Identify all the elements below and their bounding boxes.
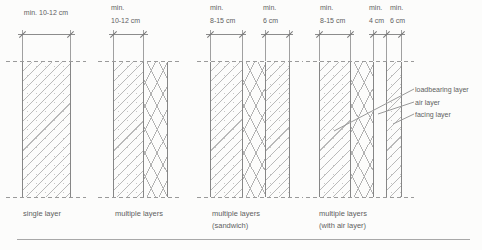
layer-facing	[265, 62, 290, 197]
dim-label: min.	[390, 2, 403, 13]
bottom-separator	[17, 239, 470, 240]
air-layer-label: air layer	[415, 98, 440, 107]
dim-label: min.	[210, 2, 223, 13]
wall-caption: (sandwich)	[212, 220, 248, 232]
cut-line-bottom	[98, 197, 181, 198]
cut-line-bottom	[306, 197, 414, 198]
layer-loadbearing	[22, 62, 71, 197]
wall-caption: (with air layer)	[319, 220, 366, 232]
wall-caption: multiple layers	[319, 208, 367, 220]
dim-label: 6 cm	[390, 15, 405, 26]
dim-label: 6 cm	[263, 15, 278, 26]
dim-label: min.	[111, 2, 124, 13]
dim-label: 10-12 cm	[111, 15, 140, 26]
layer-loadbearing	[210, 62, 242, 197]
dim-label: min.	[369, 2, 382, 13]
wall-caption: multiple layers	[115, 208, 163, 220]
cut-line-bottom	[6, 197, 86, 198]
facing-layer-label: facing layer	[415, 110, 451, 119]
loadbearing-layer-label: loadbearing layer	[415, 85, 469, 94]
leader-lines	[325, 78, 420, 138]
dim-label: min.	[263, 2, 276, 13]
dim-label: min.	[320, 2, 333, 13]
dim-label: min. 10-12 cm	[24, 7, 68, 18]
dim-label: 4 cm	[369, 15, 384, 26]
wall-types-diagram: min. 10-12 cm single layer min. 10-12 cm…	[0, 0, 482, 250]
layer-insulation	[242, 62, 265, 197]
layer-loadbearing	[113, 62, 143, 197]
wall-caption: multiple layers	[212, 208, 260, 220]
dim-label: 8-15 cm	[320, 15, 345, 26]
dim-label: 8-15 cm	[210, 15, 235, 26]
layer-insulation	[143, 62, 168, 197]
cut-line-bottom	[197, 197, 303, 198]
dimension-line	[18, 34, 75, 35]
wall-caption: single layer	[23, 208, 61, 220]
